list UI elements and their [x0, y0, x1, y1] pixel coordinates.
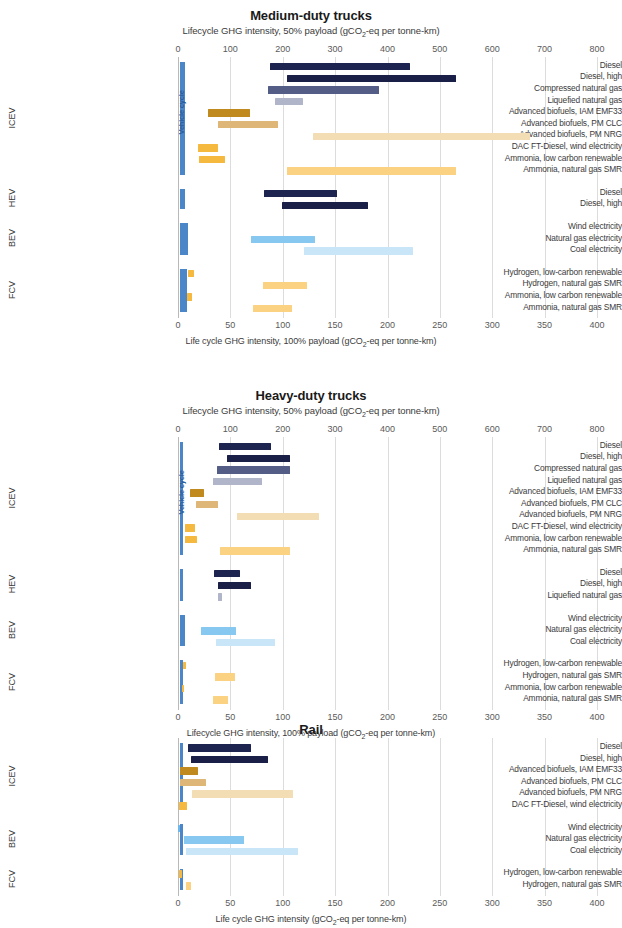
gridline	[335, 57, 336, 318]
data-bar	[217, 466, 290, 474]
row-label: DAC FT-Diesel, wind electricity	[450, 141, 622, 153]
data-bar	[178, 825, 180, 833]
axis-tick-top: 100	[223, 424, 238, 434]
row-label: Ammonia, low carbon renewable	[450, 290, 622, 302]
axis-tick-bottom: 0	[175, 898, 180, 908]
gridline	[440, 738, 441, 896]
row-label: Advanced biofuels, IAM EMF33	[450, 486, 622, 498]
gridline	[335, 437, 336, 710]
vehicle-cycle-bar	[180, 223, 188, 255]
data-bar	[287, 167, 456, 175]
data-bar	[190, 489, 205, 497]
axis-tick-bottom: 150	[328, 320, 343, 330]
axis-tick-bottom: 100	[275, 320, 290, 330]
gridline	[388, 57, 389, 318]
row-label: Liquefied natural gas	[450, 475, 622, 487]
bottom-axis-ticks: 050100150200250300350400	[0, 320, 622, 333]
axis-tick-top: 0	[175, 44, 180, 54]
plot-rows: ICEVVehicle cycleDieselDiesel, highCompr…	[0, 437, 622, 710]
data-bar	[275, 98, 302, 106]
row-label: Hydrogen, natural gas SMR	[450, 278, 622, 290]
axis-tick-bottom: 150	[328, 712, 343, 722]
row-label: Wind electricity	[450, 613, 622, 625]
row-label: Natural gas electricity	[450, 833, 622, 845]
row-label: Advanced biofuels, PM NRG	[450, 509, 622, 521]
row-label: Hydrogen, natural gas SMR	[450, 879, 622, 891]
vehicle-cycle-bar	[180, 189, 185, 209]
row-label: Advanced biofuels, IAM EMF33	[450, 764, 622, 776]
data-bar	[253, 305, 292, 313]
axis-tick-bottom: 200	[380, 712, 395, 722]
group-label-icev: ICEV	[7, 756, 17, 796]
row-label: Coal electricity	[450, 244, 622, 256]
row-label: Ammonia, low carbon renewable	[450, 682, 622, 694]
row-label: Diesel, high	[450, 198, 622, 210]
group-label-fcv: FCV	[7, 662, 17, 702]
data-bar	[185, 524, 194, 532]
plot-rows: ICEVVehicle cycleDieselDiesel, highCompr…	[0, 57, 622, 318]
group-label-bev: BEV	[7, 819, 17, 859]
gridline	[283, 437, 284, 710]
axis-tick-bottom: 400	[589, 898, 604, 908]
row-label: Ammonia, natural gas SMR	[450, 302, 622, 314]
axis-tick-bottom: 400	[589, 320, 604, 330]
group-label-icev: ICEV	[7, 98, 17, 138]
axis-tick-bottom: 250	[432, 712, 447, 722]
vehicle-cycle-bar	[180, 743, 183, 810]
row-label: Diesel	[450, 60, 622, 72]
chart-panel-1: Medium-duty trucksLifecycle GHG intensit…	[0, 8, 622, 351]
top-axis-ticks: 0100200300400500600700800	[0, 44, 622, 57]
chart-title: Heavy-duty trucks	[0, 388, 622, 404]
axis-tick-top: 600	[485, 44, 500, 54]
axis-tick-bottom: 150	[328, 898, 343, 908]
bottom-axis-label: Life cycle GHG intensity (gCO2-eq per to…	[0, 913, 622, 928]
data-bar	[237, 513, 320, 521]
axis-tick-top: 700	[537, 424, 552, 434]
data-bar	[201, 627, 236, 635]
axis-tick-top: 400	[380, 424, 395, 434]
chart-title: Rail	[0, 722, 622, 738]
gridline	[230, 57, 231, 318]
row-label: Ammonia, natural gas SMR	[450, 544, 622, 556]
row-label: Diesel, high	[450, 71, 622, 83]
axis-tick-top: 200	[275, 44, 290, 54]
row-label: Liquefied natural gas	[450, 95, 622, 107]
gridline	[283, 57, 284, 318]
data-bar	[192, 790, 294, 798]
gridline	[388, 437, 389, 710]
axis-tick-bottom: 100	[275, 898, 290, 908]
data-bar	[287, 75, 456, 83]
row-label: DAC FT-Diesel, wind electricity	[450, 799, 622, 811]
data-bar	[199, 156, 225, 164]
row-label: Ammonia, low carbon renewable	[450, 153, 622, 165]
data-bar	[304, 247, 413, 255]
data-bar	[264, 190, 336, 198]
group-label-fcv: FCV	[7, 859, 17, 899]
row-label: Diesel, high	[450, 451, 622, 463]
axis-tick-bottom: 350	[537, 898, 552, 908]
gridline	[388, 738, 389, 896]
group-label-hev: HEV	[7, 178, 17, 218]
top-axis-ticks: 0100200300400500600700800	[0, 424, 622, 437]
row-label: Diesel, high	[450, 753, 622, 765]
axis-tick-bottom: 300	[485, 712, 500, 722]
axis-tick-bottom: 350	[537, 712, 552, 722]
row-label: Diesel	[450, 187, 622, 199]
bottom-axis-label: Life cycle GHG intensity, 100% payload (…	[0, 335, 622, 351]
data-bar	[214, 570, 240, 578]
axis-tick-bottom: 50	[225, 712, 235, 722]
data-bar	[216, 639, 276, 647]
row-label: Ammonia, low carbon renewable	[450, 533, 622, 545]
vehicle-cycle-bar	[180, 824, 183, 856]
chart-subtitle: Lifecycle GHG intensity, 50% payload (gC…	[0, 24, 622, 41]
data-bar	[218, 121, 278, 129]
data-bar	[179, 870, 182, 878]
row-label: Advanced biofuels, PM CLC	[450, 776, 622, 788]
chart-subtitle: Lifecycle GHG intensity, 50% payload (gC…	[0, 404, 622, 421]
data-bar	[215, 673, 235, 681]
axis-tick-top: 700	[537, 44, 552, 54]
row-label: Hydrogen, low-carbon renewable	[450, 658, 622, 670]
vehicle-cycle-bar	[180, 615, 185, 647]
row-label: Advanced biofuels, PM NRG	[450, 787, 622, 799]
data-bar	[313, 133, 530, 141]
